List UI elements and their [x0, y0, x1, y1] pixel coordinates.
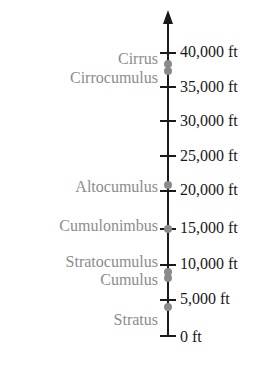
tick-label-25000: 25,000 ft — [180, 148, 238, 164]
point-stratus — [164, 303, 172, 311]
tick-35000 — [160, 86, 176, 88]
tick-label-20000: 20,000 ft — [180, 182, 238, 198]
point-cumulus — [164, 274, 172, 282]
tick-0 — [160, 335, 176, 337]
tick-30000 — [160, 120, 176, 122]
tick-20000 — [160, 190, 176, 192]
point-altocumulus — [164, 181, 172, 189]
tick-40000 — [160, 52, 176, 54]
tick-label-0: 0 ft — [180, 329, 202, 345]
tick-10000 — [160, 264, 176, 266]
point-cumulonimbus — [164, 225, 172, 233]
label-cirrocumulus: Cirrocumulus — [70, 70, 158, 86]
label-cumulonimbus: Cumulonimbus — [59, 218, 158, 234]
tick-label-30000: 30,000 ft — [180, 113, 238, 129]
tick-25000 — [160, 155, 176, 157]
label-cirrus: Cirrus — [118, 51, 158, 67]
tick-label-15000: 15,000 ft — [180, 220, 238, 236]
point-cirrocumulus — [164, 67, 172, 75]
tick-label-40000: 40,000 ft — [180, 44, 238, 60]
label-stratocumulus: Stratocumulus — [66, 254, 158, 270]
label-stratus: Stratus — [114, 312, 158, 328]
tick-5000 — [160, 299, 176, 301]
tick-label-5000: 5,000 ft — [180, 291, 230, 307]
label-cumulus: Cumulus — [100, 272, 158, 288]
label-altocumulus: Altocumulus — [75, 179, 158, 195]
tick-label-10000: 10,000 ft — [180, 256, 238, 272]
tick-label-35000: 35,000 ft — [180, 79, 238, 95]
